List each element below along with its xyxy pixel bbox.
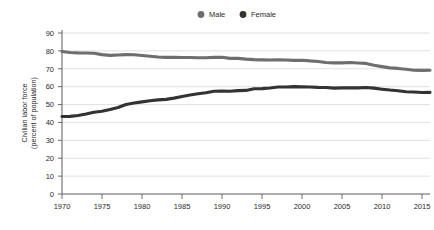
x-tick-label: 1980 [134,202,151,211]
x-tick-label: 1995 [254,202,271,211]
y-tick-label: 0 [50,190,54,199]
line-chart: Male Female Civilian labor force (percen… [0,0,434,230]
chart-legend: Male Female [198,10,276,19]
x-axis-ticks: 1970197519801985199019952000200520102015 [54,194,431,211]
x-tick-label: 2015 [414,202,431,211]
y-tick-label: 90 [46,29,54,38]
y-axis-title-line2: (percent of population) [29,77,38,149]
y-tick-label: 70 [46,65,54,74]
legend-label-male: Male [209,10,225,19]
x-tick-label: 2005 [334,202,351,211]
y-tick-label: 80 [46,47,54,56]
gridlines [62,33,430,194]
series-line-female [62,87,430,117]
y-tick-label: 30 [46,136,54,145]
y-axis-title: Civilian labor force (percent of populat… [20,77,38,149]
y-tick-label: 60 [46,82,54,91]
legend-label-female: Female [251,10,276,19]
x-tick-label: 1985 [174,202,191,211]
x-tick-label: 2010 [374,202,391,211]
y-tick-label: 50 [46,100,54,109]
y-tick-label: 10 [46,172,54,181]
legend-marker-male [198,11,205,18]
x-tick-label: 2000 [294,202,311,211]
chart-container: Male Female Civilian labor force (percen… [0,0,434,230]
y-axis-ticks: 0102030405060708090 [46,29,62,199]
x-tick-label: 1990 [214,202,231,211]
legend-marker-female [240,11,247,18]
y-tick-label: 20 [46,154,54,163]
series-group [62,51,430,116]
y-tick-label: 40 [46,118,54,127]
y-axis-title-line1: Civilian labor force [20,83,29,142]
series-line-male [62,51,430,70]
x-tick-label: 1970 [54,202,71,211]
x-tick-label: 1975 [94,202,111,211]
